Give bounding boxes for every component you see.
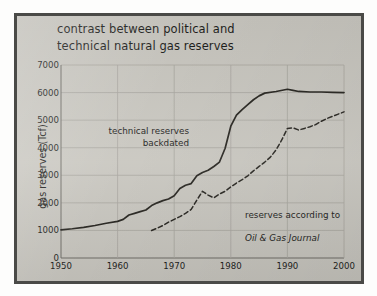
- figure-chart-natural-gas-reserves: contrast between political and technical…: [0, 0, 377, 296]
- y-tick-label: 7000: [25, 60, 59, 70]
- y-tick-label: 1000: [25, 225, 59, 235]
- x-tick-label: 2000: [324, 261, 364, 271]
- x-tick-label: 1960: [98, 261, 138, 271]
- y-tick-label: 4000: [25, 143, 59, 153]
- x-tick-label: 1950: [41, 261, 81, 271]
- annotation-technical-reserves: technical reserves backdated: [79, 126, 189, 149]
- x-tick-label: 1970: [154, 261, 194, 271]
- chart-title: contrast between political and technical…: [57, 21, 337, 54]
- x-tick-label: 1990: [267, 261, 307, 271]
- x-tick-label: 1980: [211, 261, 251, 271]
- annotation-oilgas-source: Oil & Gas Journal: [245, 233, 319, 243]
- chart-frame: contrast between political and technical…: [14, 13, 364, 284]
- x-axis-tick-labels: 195019601970198019902000: [61, 261, 344, 275]
- annotation-oilgas-line1: reserves according to: [245, 210, 340, 220]
- y-tick-label: 6000: [25, 88, 59, 98]
- y-axis-tick-labels: 01000200030004000500060007000: [21, 65, 59, 258]
- y-tick-label: 2000: [25, 198, 59, 208]
- annotation-oil-gas-journal: reserves according to Oil & Gas Journal: [245, 198, 364, 244]
- y-tick-label: 5000: [25, 115, 59, 125]
- y-tick-label: 3000: [25, 170, 59, 180]
